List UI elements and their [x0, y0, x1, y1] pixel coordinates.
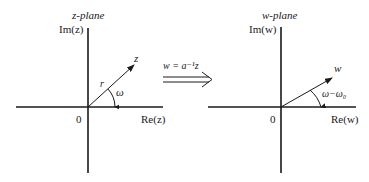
w-plane-title: w-plane — [262, 9, 298, 21]
transform: w = a⁻¹z — [163, 60, 212, 87]
z-plane-title: z-plane — [71, 9, 105, 21]
z-vector — [88, 65, 134, 107]
w-plane: w-plane Im(w) Re(w) 0 w ω−ω₀ — [208, 9, 359, 173]
conformal-mapping-diagram: z-plane Im(z) Re(z) 0 z r ω w = a⁻¹z w-p… — [0, 0, 369, 182]
transform-equation: w = a⁻¹z — [163, 60, 199, 71]
vector-label-w: w — [334, 62, 342, 74]
magnitude-label-r: r — [100, 78, 104, 89]
angle-label-omega: ω — [116, 86, 124, 98]
angle-label-omega-minus-omega0: ω−ω₀ — [322, 88, 347, 99]
imag-axis-label: Im(w) — [249, 23, 277, 36]
angle-arc-omega-minus-omega0 — [310, 90, 321, 107]
origin-label: 0 — [76, 113, 82, 125]
angle-arc-omega — [108, 89, 115, 107]
origin-label: 0 — [270, 113, 276, 125]
real-axis-label: Re(w) — [331, 113, 359, 126]
vector-label-z: z — [133, 52, 139, 64]
real-axis-label: Re(z) — [141, 113, 166, 126]
z-plane: z-plane Im(z) Re(z) 0 z r ω — [16, 9, 166, 173]
double-arrow-icon — [163, 72, 212, 87]
imag-axis-label: Im(z) — [59, 23, 84, 36]
